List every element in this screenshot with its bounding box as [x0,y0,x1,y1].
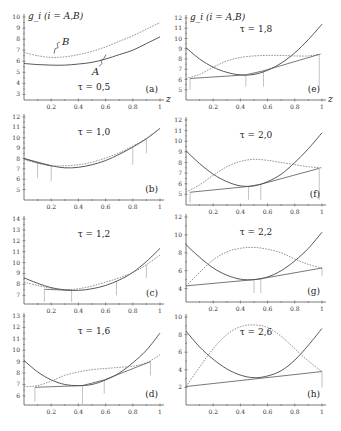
y-tick-label: 2 [178,383,182,390]
y-tick-labels: 56789101112 [174,14,187,93]
tau-label: τ = 1,8 [240,24,273,34]
y-tick-label: 14 [12,215,20,222]
y-tick-label: 10 [12,134,20,141]
common-tangent-line [186,372,322,387]
panel-label: (f) [310,189,320,199]
y-tick-label: 9 [178,148,182,155]
y-axis-label: g_i (i = A,B) [28,11,84,22]
curve-label-A: A [91,66,99,77]
y-tick-label: 6 [178,267,182,274]
x-tick-label: 0.4 [74,203,84,210]
curve-B [24,255,160,290]
common-tangent-line [44,289,71,290]
panel-label: (d) [145,389,158,399]
y-tick-label: 10 [12,13,20,20]
y-tick-label: 12 [12,237,20,244]
y-tick-labels: 4681012 [174,213,187,292]
y-tick-label: 7 [16,46,20,53]
x-tick-label: 0.4 [74,307,84,314]
y-tick-label: 3 [16,90,20,97]
panel-b: 567891011120.20.40.60.81τ = 1,0(b) [12,113,164,210]
tau-label: τ = 2,6 [240,327,273,337]
y-tick-label: 8 [178,55,182,62]
x-tick-label: 0.2 [46,203,56,210]
y-tick-label: 11 [174,127,182,134]
x-tick-label: 0.2 [208,103,218,110]
y-tick-label: 11 [12,335,20,342]
y-tick-label: 10 [12,259,20,266]
y-tick-labels: 345678910 [12,13,25,97]
y-tick-labels: 7891011121314 [12,215,25,298]
panel-c: 78910111213140.20.40.60.81τ = 1,2(c) [12,215,164,314]
x-tick-label: 0.8 [128,408,138,415]
y-tick-label: 8 [16,280,20,287]
y-tick-label: 12 [174,14,182,21]
x-tick-label: 0.2 [208,208,218,215]
y-tick-labels: 56789101112 [12,113,25,193]
curve-B [24,23,160,58]
pointer-squiggle [54,42,60,54]
x-tick-label: 0.4 [236,305,246,312]
curve-label-B: B [61,36,69,47]
x-tick-label: 0.8 [128,203,138,210]
panel-f: 567891011120.20.40.60.81τ = 2,0(f) [174,116,326,215]
y-tick-label: 6 [16,57,20,64]
figure: 3456789100.20.40.60.81zg_i (i = A,B)τ = … [0,0,341,431]
x-tick-label: 0.2 [46,103,56,110]
y-tick-label: 5 [178,86,182,93]
panel-label: (c) [146,288,158,298]
y-tick-label: 7 [16,380,20,387]
y-tick-label: 8 [178,159,182,166]
panel-a: 3456789100.20.40.60.81zg_i (i = A,B)τ = … [12,11,171,110]
tau-label: τ = 1,2 [78,229,111,239]
x-axis-label: z [327,94,333,104]
y-tick-label: 11 [12,123,20,130]
y-tick-label: 9 [16,24,20,31]
y-tick-label: 10 [174,137,182,144]
y-tick-label: 12 [174,213,182,220]
panel-label: (e) [308,84,320,94]
common-tangent-line [35,362,151,388]
y-tick-label: 12 [12,113,20,120]
x-tick-label: 0.2 [208,408,218,415]
x-tick-label: 0.2 [208,305,218,312]
y-tick-label: 6 [178,76,182,83]
y-tick-label: 7 [178,65,182,72]
y-tick-labels: 56789101112 [174,116,187,197]
y-tick-label: 9 [16,358,20,365]
y-tick-label: 5 [16,68,20,75]
y-tick-label: 8 [16,155,20,162]
panel-label: (a) [146,84,158,94]
y-tick-label: 8 [178,249,182,256]
y-tick-label: 8 [16,35,20,42]
panel-label: (b) [145,184,158,194]
x-tick-label: 0.4 [236,103,246,110]
tau-label: τ = 1,0 [78,127,111,137]
panel-label: (h) [307,389,320,399]
tau-label: τ = 1,6 [78,326,111,336]
x-tick-label: 0.8 [290,208,300,215]
y-tick-label: 6 [16,392,20,399]
x-tick-label: 0.8 [128,103,138,110]
y-tick-label: 9 [16,269,20,276]
y-tick-label: 7 [178,169,182,176]
y-tick-label: 11 [12,248,20,255]
tau-label: τ = 2,0 [240,130,273,140]
x-tick-label: 0.6 [263,103,273,110]
x-tick-label: 0.4 [236,208,246,215]
y-tick-label: 5 [16,186,20,193]
y-tick-label: 5 [178,190,182,197]
y-tick-labels: 678910111213 [12,312,25,399]
panel-e: 567891011120.20.40.60.81zg_i (i = A,B)τ … [174,12,333,110]
x-tick-label: 0.6 [101,307,111,314]
x-tick-label: 1 [320,305,324,312]
x-tick-label: 0.4 [236,408,246,415]
y-tick-label: 7 [16,291,20,298]
x-tick-label: 1 [158,103,162,110]
y-tick-label: 12 [174,116,182,123]
x-tick-label: 1 [320,408,324,415]
x-tick-label: 0.6 [263,305,273,312]
y-tick-label: 11 [174,24,182,31]
x-tick-label: 0.8 [290,408,300,415]
x-axis-label: z [165,94,171,104]
